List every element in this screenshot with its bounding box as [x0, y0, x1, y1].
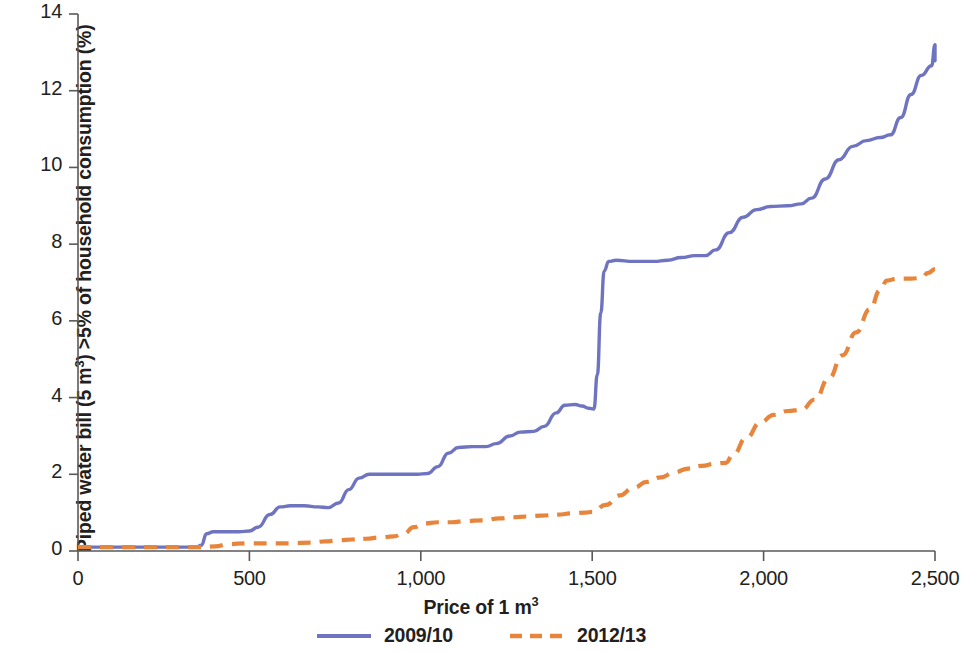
- series-line-2009-10: [78, 45, 935, 547]
- y-tick-label: 2: [16, 460, 62, 483]
- legend-entry[interactable]: 2012/13: [509, 624, 646, 647]
- x-tick-label: 500: [204, 567, 294, 590]
- plot-area: [0, 0, 962, 653]
- y-tick-label: 12: [16, 77, 62, 100]
- x-tick-label: 2,000: [719, 567, 809, 590]
- y-tick-label: 4: [16, 384, 62, 407]
- legend-entry[interactable]: 2009/10: [316, 624, 453, 647]
- x-tick-label: 1,500: [547, 567, 637, 590]
- chart-figure: Piped water bill (5 m3) >5% of household…: [0, 0, 962, 653]
- x-tick-label: 2,500: [890, 567, 962, 590]
- y-tick-label: 10: [16, 153, 62, 176]
- legend-swatch-solid: [316, 629, 372, 643]
- series-line-2012-13: [78, 269, 935, 547]
- x-axis-title: Price of 1 m3: [0, 594, 962, 619]
- legend-swatch-dashed: [509, 629, 565, 643]
- chart-legend: 2009/102012/13: [0, 624, 962, 647]
- y-tick-label: 8: [16, 230, 62, 253]
- y-tick-label: 14: [16, 0, 62, 23]
- axis-lines: [69, 14, 935, 561]
- legend-label: 2012/13: [577, 624, 646, 647]
- y-tick-label: 0: [16, 537, 62, 560]
- x-tick-label: 1,000: [376, 567, 466, 590]
- series-layer: [78, 45, 935, 547]
- legend-label: 2009/10: [384, 624, 453, 647]
- y-tick-label: 6: [16, 307, 62, 330]
- x-tick-label: 0: [33, 567, 123, 590]
